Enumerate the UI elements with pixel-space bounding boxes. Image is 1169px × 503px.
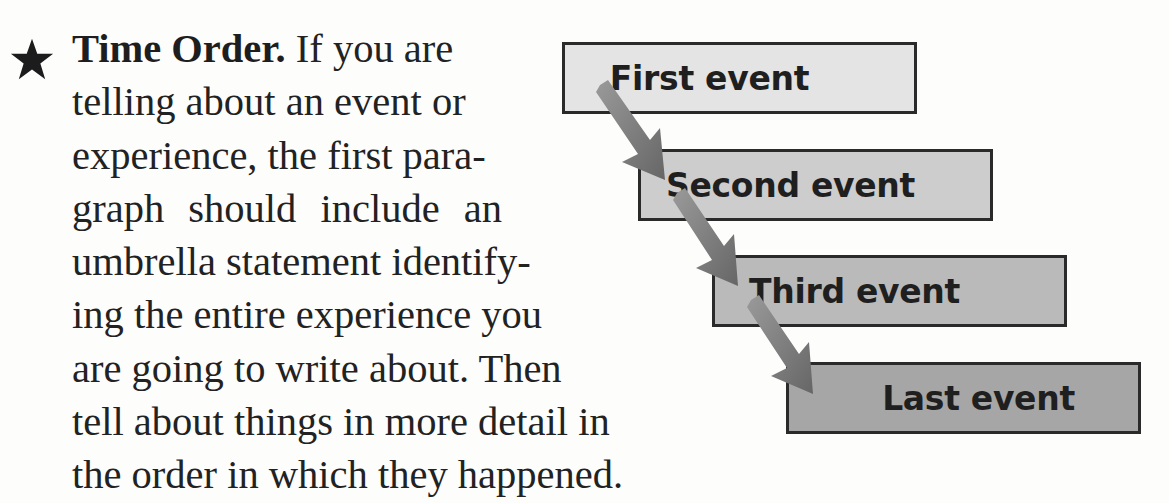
paragraph-line-4: graph should include an (72, 182, 552, 235)
event-box-third: Third event (712, 255, 1067, 327)
event-label: First event (610, 59, 809, 98)
paragraph-line-7: are going to write about. Then (72, 342, 552, 395)
time-order-paragraph: Time Order. If you are telling about an … (72, 22, 552, 502)
event-label: Third event (749, 272, 960, 311)
event-label: Last event (882, 379, 1075, 418)
paragraph-line-1: Time Order. If you are (72, 22, 552, 75)
star-icon (10, 37, 54, 81)
event-label: Second event (666, 166, 915, 205)
paragraph-lead: Time Order. (72, 26, 286, 71)
event-box-second: Second event (638, 149, 993, 221)
paragraph-line-2: telling about an event or (72, 75, 552, 128)
paragraph-line-3: experience, the first para- (72, 129, 552, 182)
paragraph-line-9: the order in which they happened. (72, 448, 552, 501)
event-box-last: Last event (786, 362, 1141, 434)
event-box-first: First event (562, 42, 917, 114)
paragraph-line-5: umbrella statement identify- (72, 235, 552, 288)
paragraph-line-6: ing the entire experience you (72, 288, 552, 341)
paragraph-line-8: tell about things in more detail in (72, 395, 552, 448)
